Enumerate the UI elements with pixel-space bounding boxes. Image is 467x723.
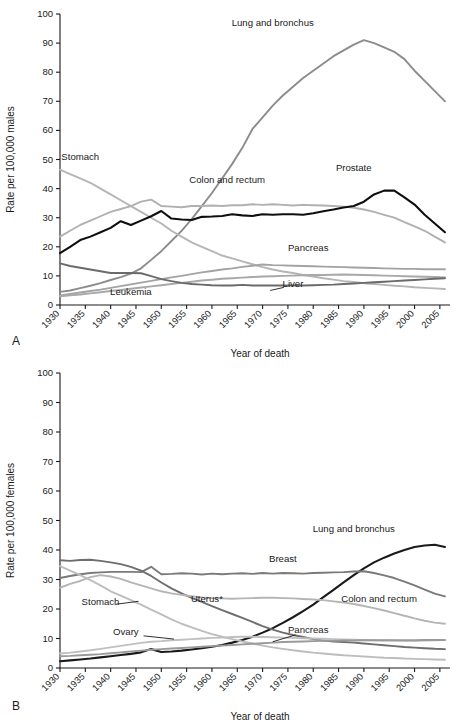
- x-tick-label: 1970: [242, 671, 264, 693]
- x-tick-label: 1965: [217, 671, 239, 693]
- x-axis-title: Year of death: [230, 711, 289, 722]
- x-tick-label: 1980: [293, 308, 315, 330]
- x-tick-label: 2005: [420, 308, 442, 330]
- y-tick-label: 50: [42, 515, 53, 526]
- x-tick-label: 1960: [192, 671, 214, 693]
- y-tick-label: 100: [37, 367, 53, 378]
- x-tick-label: 2000: [394, 308, 416, 330]
- series-label-uterus: Uterus*: [191, 593, 223, 604]
- series-label-stomach: Stomach: [61, 151, 99, 162]
- x-tick-label: 1935: [65, 671, 87, 693]
- series-label-lung-and-bronchus: Lung and bronchus: [313, 523, 395, 534]
- x-tick-label: 1940: [90, 308, 112, 330]
- series-label-stomach: Stomach: [82, 596, 120, 607]
- panel-letter: A: [12, 334, 20, 348]
- y-tick-label: 80: [42, 426, 53, 437]
- y-tick-label: 100: [37, 8, 53, 19]
- x-tick-label: 2000: [394, 671, 416, 693]
- y-tick-label: 70: [42, 95, 53, 106]
- y-tick-label: 20: [42, 603, 53, 614]
- x-tick-label: 1990: [344, 671, 366, 693]
- y-tick-label: 30: [42, 212, 53, 223]
- series-label-ovary: Ovary: [113, 626, 139, 637]
- series-line-prostate: [60, 191, 445, 254]
- panel-letter: B: [12, 699, 20, 713]
- y-tick-label: 30: [42, 574, 53, 585]
- series-line-colon-and-rectum: [60, 200, 445, 243]
- x-tick-label: 1950: [141, 308, 163, 330]
- figure-container: 0102030405060708090100193019351940194519…: [0, 0, 467, 723]
- chart-panel-a: 0102030405060708090100193019351940194519…: [0, 0, 467, 362]
- series-label-prostate: Prostate: [336, 162, 372, 173]
- x-tick-label: 1930: [40, 671, 62, 693]
- x-tick-label: 1935: [65, 308, 87, 330]
- y-tick-label: 20: [42, 241, 53, 252]
- y-tick-label: 50: [42, 154, 53, 165]
- y-axis-title: Rate per 100,000 males: [5, 106, 16, 213]
- x-tick-label: 1970: [242, 308, 264, 330]
- series-line-liver: [60, 263, 445, 285]
- chart-a-svg: 0102030405060708090100193019351940194519…: [0, 0, 467, 362]
- y-tick-label: 10: [42, 633, 53, 644]
- x-tick-label: 1980: [293, 671, 315, 693]
- series-line-stomach: [60, 170, 445, 289]
- y-tick-label: 0: [48, 299, 53, 310]
- x-tick-label: 1995: [369, 671, 391, 693]
- x-tick-label: 1940: [90, 671, 112, 693]
- y-tick-label: 40: [42, 544, 53, 555]
- x-tick-label: 1990: [344, 308, 366, 330]
- x-tick-label: 1985: [318, 308, 340, 330]
- y-tick-label: 90: [42, 37, 53, 48]
- leader-ovary: [144, 636, 174, 639]
- y-tick-label: 80: [42, 66, 53, 77]
- series-label-breast: Breast: [269, 553, 297, 564]
- x-axis-title: Year of death: [230, 348, 289, 359]
- x-tick-label: 1945: [116, 671, 138, 693]
- y-tick-label: 60: [42, 485, 53, 496]
- series-label-pancreas: Pancreas: [288, 624, 329, 635]
- x-tick-label: 1975: [268, 671, 290, 693]
- x-tick-label: 1945: [116, 308, 138, 330]
- x-tick-label: 1985: [318, 671, 340, 693]
- y-tick-label: 10: [42, 270, 53, 281]
- y-tick-label: 40: [42, 183, 53, 194]
- x-tick-label: 1950: [141, 671, 163, 693]
- chart-panel-b: 0102030405060708090100193019351940194519…: [0, 361, 467, 723]
- series-line-lung-and-bronchus: [60, 40, 445, 292]
- series-label-liver: Liver: [283, 278, 305, 289]
- x-tick-label: 1965: [217, 308, 239, 330]
- series-label-colon-and-rectum: Colon and rectum: [341, 593, 417, 604]
- y-tick-label: 60: [42, 124, 53, 135]
- series-label-pancreas: Pancreas: [288, 242, 329, 253]
- x-tick-label: 1995: [369, 308, 391, 330]
- x-tick-label: 1960: [192, 308, 214, 330]
- x-tick-label: 1930: [40, 308, 62, 330]
- y-tick-label: 70: [42, 456, 53, 467]
- series-label-colon-and-rectum: Colon and rectum: [189, 174, 265, 185]
- x-tick-label: 1955: [166, 671, 188, 693]
- y-axis-title: Rate per 100,000 females: [5, 463, 16, 578]
- x-tick-label: 1955: [166, 308, 188, 330]
- x-tick-label: 2005: [420, 671, 442, 693]
- y-tick-label: 0: [48, 662, 53, 673]
- series-label-lung-and-bronchus: Lung and bronchus: [232, 17, 314, 28]
- y-tick-label: 90: [42, 397, 53, 408]
- series-line-pancreas: [60, 640, 445, 656]
- axis-lines: [60, 14, 450, 305]
- series-label-leukemia: Leukemia: [110, 286, 152, 297]
- chart-b-svg: 0102030405060708090100193019351940194519…: [0, 361, 467, 723]
- x-tick-label: 1975: [268, 308, 290, 330]
